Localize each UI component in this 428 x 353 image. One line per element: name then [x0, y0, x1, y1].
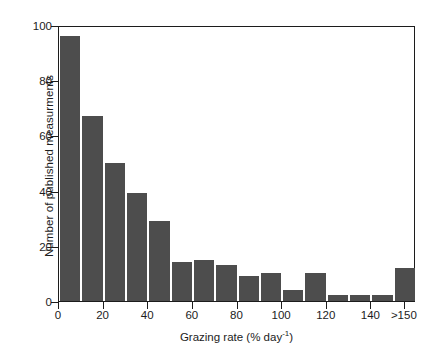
- bar: [105, 163, 125, 301]
- x-tick-mark: [192, 302, 193, 309]
- bar: [305, 273, 325, 301]
- x-tick-mark: [370, 302, 371, 309]
- y-axis-tick-labels: 020406080100: [24, 0, 52, 353]
- bar-series: [59, 27, 414, 301]
- x-tick-mark: [281, 302, 282, 309]
- y-tick-label: 100: [28, 20, 52, 32]
- y-tick-mark: [51, 136, 58, 137]
- y-tick-mark: [51, 302, 58, 303]
- bar: [127, 193, 147, 301]
- x-axis-title-suffix: ): [289, 331, 293, 343]
- bar: [350, 295, 370, 301]
- bar: [216, 265, 236, 301]
- bar: [149, 221, 169, 301]
- x-axis-tick-labels: 020406080100120140>150: [0, 309, 428, 327]
- y-tick-mark: [51, 26, 58, 27]
- x-axis-title-text: Grazing rate (% day: [180, 331, 282, 343]
- y-tick-label: 0: [28, 296, 52, 308]
- y-tick-label: 40: [28, 186, 52, 198]
- bar: [172, 262, 192, 301]
- bar: [239, 276, 259, 301]
- x-tick-label: 40: [141, 309, 154, 321]
- bar: [328, 295, 348, 301]
- histogram-figure: Number of published measurments 02040608…: [0, 0, 428, 353]
- y-tick-mark: [51, 81, 58, 82]
- bar: [372, 295, 392, 301]
- bar: [395, 268, 415, 301]
- bar: [283, 290, 303, 301]
- x-tick-mark: [404, 302, 405, 309]
- y-tick-label: 80: [28, 75, 52, 87]
- x-tick-mark: [58, 302, 59, 309]
- x-tick-mark: [237, 302, 238, 309]
- bar: [60, 36, 80, 301]
- x-tick-mark: [326, 302, 327, 309]
- x-tick-label: 0: [55, 309, 61, 321]
- y-tick-mark: [51, 192, 58, 193]
- y-tick-mark: [51, 247, 58, 248]
- x-tick-label: 80: [230, 309, 243, 321]
- x-tick-label: >150: [391, 309, 417, 321]
- x-tick-label: 60: [185, 309, 198, 321]
- bar: [261, 273, 281, 301]
- y-tick-label: 60: [28, 130, 52, 142]
- x-tick-label: 120: [316, 309, 335, 321]
- x-tick-label: 100: [272, 309, 291, 321]
- x-tick-label: 140: [361, 309, 380, 321]
- x-tick-mark: [147, 302, 148, 309]
- bar: [194, 260, 214, 301]
- bar: [82, 116, 102, 301]
- x-tick-label: 20: [96, 309, 109, 321]
- x-tick-mark: [103, 302, 104, 309]
- y-tick-label: 20: [28, 241, 52, 253]
- x-axis-title: Grazing rate (% day-1): [58, 329, 415, 343]
- plot-area: [58, 26, 415, 302]
